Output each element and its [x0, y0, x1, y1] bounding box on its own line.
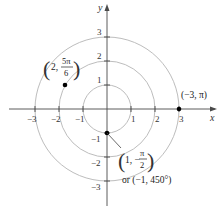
y-tick-label: 3 [97, 27, 102, 37]
svg-text:(: ( [43, 56, 50, 81]
svg-text:1, −: 1, − [125, 155, 140, 165]
x-tick-label: −2 [51, 114, 61, 124]
svg-text:): ) [73, 56, 80, 81]
x-axis-label: x [209, 112, 215, 123]
x-axis-arrow-icon [210, 107, 217, 112]
point-label-1-neg-pi-2: ( 1, − π 2 ) [118, 148, 154, 173]
x-tick-label: 1 [131, 114, 136, 124]
x-tick-label: 2 [155, 114, 160, 124]
svg-text:2: 2 [140, 160, 144, 170]
y-axis-label: y [97, 2, 103, 13]
x-tick-label: −1 [75, 114, 85, 124]
x-tick-label: 3 [179, 114, 184, 124]
point-neg3-pi [177, 107, 182, 112]
x-tick-label: −3 [27, 114, 37, 124]
svg-text:π: π [140, 148, 145, 158]
y-tick-label: −3 [91, 182, 101, 192]
y-tick-label: −2 [91, 158, 101, 168]
point-label-neg3-pi: (−3, π) [181, 90, 207, 101]
leader-line [107, 133, 121, 148]
y-axis-arrow-icon [105, 4, 110, 11]
y-tick-label: 2 [97, 51, 102, 61]
svg-text:6: 6 [64, 68, 68, 78]
svg-text:2,: 2, [51, 62, 58, 72]
point-2-5pi-6 [63, 83, 68, 88]
y-tick-label: 1 [97, 75, 102, 85]
y-tick-label: −1 [91, 134, 101, 144]
svg-text:5π: 5π [62, 56, 71, 66]
polar-plot: −3 −2 −1 1 2 3 3 2 1 −1 −2 −3 x y ( 2, 5… [0, 0, 224, 214]
svg-text:): ) [147, 148, 154, 173]
point-alt-label: or (−1, 450°) [122, 175, 172, 186]
point-label-2-5pi-6: ( 2, 5π 6 ) [43, 56, 80, 81]
